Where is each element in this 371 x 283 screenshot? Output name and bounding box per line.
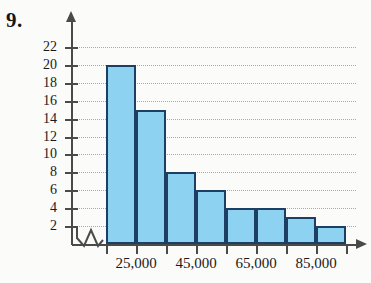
- x-axis-tick: [166, 245, 168, 254]
- x-axis-tick: [286, 245, 288, 254]
- x-axis-arrow-icon: [356, 239, 367, 249]
- y-axis-line: [71, 20, 73, 245]
- x-axis-tick-label: 85,000: [295, 255, 336, 272]
- x-axis-tick-label: 65,000: [235, 255, 276, 272]
- histogram-bar: [196, 190, 226, 244]
- y-axis-tick: [65, 119, 78, 121]
- x-axis-tick: [346, 245, 348, 254]
- y-axis-tick: [65, 101, 78, 103]
- y-axis-arrow-icon: [66, 11, 76, 22]
- histogram-bar: [166, 172, 196, 244]
- y-axis-tick-label: 22: [31, 40, 57, 54]
- y-axis-tick-label: 14: [31, 112, 57, 126]
- plot-area: 246810121416182022 25,00045,00065,00085,…: [0, 0, 371, 283]
- y-axis-tick: [65, 83, 78, 85]
- x-axis-tick: [316, 245, 318, 254]
- histogram-bar: [256, 208, 286, 244]
- y-axis-tick-label: 4: [31, 201, 57, 215]
- axis-break-icon: [76, 226, 110, 248]
- x-axis-tick: [256, 245, 258, 254]
- y-axis-tick-label: 6: [31, 183, 57, 197]
- x-axis-tick: [136, 245, 138, 254]
- x-axis-tick-label: 25,000: [115, 255, 156, 272]
- histogram-bar: [316, 226, 346, 244]
- y-axis-tick: [65, 190, 78, 192]
- y-axis-tick: [65, 47, 78, 49]
- y-axis-tick: [65, 154, 78, 156]
- histogram-figure: 9. 246810121416182022 25,00045,00065,000…: [0, 0, 371, 283]
- y-axis-tick-label: 2: [31, 219, 57, 233]
- y-axis-tick-label: 10: [31, 147, 57, 161]
- gridline: [72, 47, 356, 48]
- x-axis-tick: [226, 245, 228, 254]
- y-axis-tick: [65, 137, 78, 139]
- y-axis-tick-label: 18: [31, 76, 57, 90]
- y-axis-tick: [65, 208, 78, 210]
- x-axis-tick: [196, 245, 198, 254]
- y-axis-tick-label: 20: [31, 58, 57, 72]
- histogram-bar: [136, 110, 166, 244]
- y-axis-tick-label: 16: [31, 94, 57, 108]
- histogram-bar: [106, 65, 136, 244]
- y-axis-tick: [65, 65, 78, 67]
- histogram-bar: [226, 208, 256, 244]
- y-axis-tick-label: 8: [31, 165, 57, 179]
- x-axis-line: [72, 244, 357, 246]
- x-axis-tick-label: 45,000: [175, 255, 216, 272]
- y-axis-tick: [65, 172, 78, 174]
- histogram-bar: [286, 217, 316, 244]
- y-axis-tick-label: 12: [31, 130, 57, 144]
